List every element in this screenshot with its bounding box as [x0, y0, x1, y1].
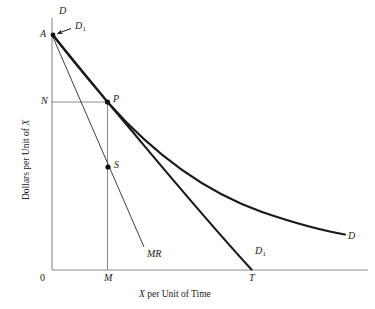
point-n-label: N [41, 96, 48, 106]
kinked-demand-curve-figure: A D D1 N P S MR D1 T D M 0 Dollars per U… [0, 0, 375, 309]
marginal-revenue-label: MR [147, 249, 161, 259]
point-p-marker [105, 99, 110, 104]
point-s-label: S [114, 160, 119, 170]
y-axis-title-variable: X [21, 120, 31, 126]
curve-d1-bottom-label: D1 [255, 246, 266, 256]
point-m-label: M [104, 273, 112, 283]
point-a-label: A [40, 29, 46, 39]
curve-d1-top-label: D1 [75, 21, 86, 31]
point-p-label: P [113, 94, 119, 104]
x-axis-title: X per Unit of Time [139, 290, 211, 300]
curve-d-right-label: D [348, 231, 355, 241]
curve-d1-bottom-letter: D [255, 245, 262, 256]
origin-label: 0 [40, 273, 45, 283]
curve-d1-top-subscript: 1 [83, 25, 87, 33]
point-t-label: T [249, 273, 255, 283]
y-axis-title: Dollars per Unit of X [22, 120, 32, 200]
demand-curve-d [53, 35, 345, 235]
curve-d1-top-letter: D [75, 20, 82, 31]
point-a-marker [51, 33, 56, 38]
x-axis-title-text: per Unit of Time [145, 289, 211, 299]
y-axis-title-text: Dollars per Unit of [21, 126, 31, 200]
point-s-marker [105, 164, 110, 169]
diagram-canvas [0, 0, 375, 309]
marginal-revenue-line [52, 35, 144, 247]
curve-d1-bottom-subscript: 1 [263, 250, 267, 258]
curve-d-top-label: D [59, 6, 66, 16]
leader-arrow-to-a [58, 29, 72, 34]
